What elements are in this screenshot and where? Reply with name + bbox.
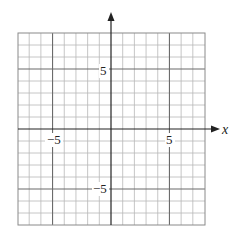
x-tick-label-5: 5 <box>166 132 173 147</box>
x-axis-arrow-icon <box>211 126 220 133</box>
y-axis-arrow-icon <box>108 12 115 21</box>
y-tick-label-5: 5 <box>100 63 107 78</box>
x-tick-label-neg5: −5 <box>47 132 61 147</box>
x-axis-label: x <box>221 122 229 137</box>
coordinate-grid: x −5 5 5 −5 <box>0 0 236 237</box>
y-tick-label-neg5: −5 <box>93 181 107 196</box>
